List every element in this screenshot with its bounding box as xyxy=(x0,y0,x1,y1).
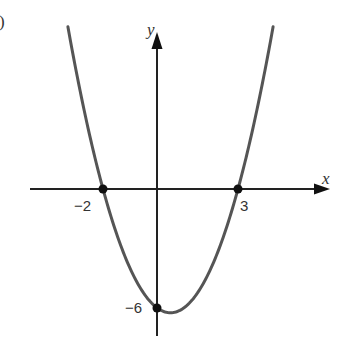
part-marker: ) xyxy=(0,12,5,31)
y-axis-label: y xyxy=(145,20,155,39)
x-intercept-left-label: −2 xyxy=(74,197,91,214)
x-axis-label: x xyxy=(321,169,330,188)
x-intercept-right-point xyxy=(234,185,243,194)
parabola-graph: ) x y −2 3 −6 xyxy=(0,0,343,342)
y-intercept-label: −6 xyxy=(125,299,142,316)
x-intercept-right-label: 3 xyxy=(240,197,248,214)
parabola-curve xyxy=(68,27,273,313)
x-intercept-left-point xyxy=(99,185,108,194)
y-intercept-point xyxy=(153,304,162,313)
